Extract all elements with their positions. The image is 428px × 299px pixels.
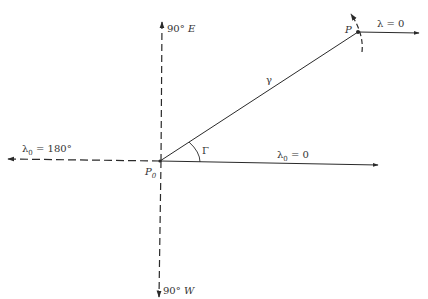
label-90w: 90° W [163,286,194,296]
label-gamma-upper: Γ [202,146,209,156]
lambda-subscript: 0 [283,155,287,163]
great-circle-line [160,32,358,161]
axis-90e-dashed-line [161,22,162,161]
origin-point [158,159,161,162]
angle-arc [189,142,200,162]
label-lambda-0-target: λ = 0 [377,19,404,29]
label-lambda0-0: λ0 = 0 [277,150,309,160]
axis-90w-dashed-line [159,161,161,297]
gamma-lower-symbol: γ [266,74,272,85]
p0-letter: P [145,166,152,177]
p-letter: P [345,24,352,35]
target-point [356,30,360,34]
axis-180-dashed-line [8,159,160,161]
label-p: P [345,25,352,35]
lambda-subscript: 0 [28,149,32,157]
axis-0-solid-line [160,161,378,165]
label-90e-number: 90° [167,23,185,34]
gamma-upper-symbol: Γ [202,145,209,156]
label-90e: 90° E [167,24,195,34]
label-lambda0-180: λ0 = 180° [22,144,72,154]
lambda-symbol: λ [377,18,383,29]
label-90e-letter: E [188,23,195,34]
label-gamma-lower: γ [266,75,272,85]
lambda-value: = 0 [291,149,309,160]
label-p0: P0 [145,167,156,177]
lambda-value: = 180° [36,143,72,154]
p0-subscript: 0 [152,172,156,180]
lambda-value: = 0 [387,18,405,29]
label-90w-number: 90° [163,285,181,296]
target-direction-arrow [358,32,419,33]
label-90w-letter: W [184,285,194,296]
